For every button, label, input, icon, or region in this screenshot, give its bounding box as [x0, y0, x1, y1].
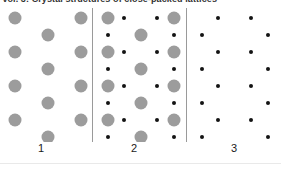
lattice-site-large	[75, 12, 88, 25]
lattice-site-small	[216, 16, 220, 20]
lattice-site-small	[172, 135, 176, 139]
lattice-site-small	[155, 118, 159, 122]
lattice-site-small	[155, 84, 159, 88]
panel-label-1: 1	[21, 142, 61, 154]
lattice-site-small	[122, 16, 126, 20]
lattice-site-small	[216, 84, 220, 88]
lattice-site-small	[155, 50, 159, 54]
panel-labels: 1 2 3	[0, 142, 281, 164]
lattice-site-large	[75, 46, 88, 59]
lattice-site-large	[168, 46, 181, 59]
panel-label-2: 2	[114, 142, 154, 154]
lattice-site-small	[172, 101, 176, 105]
panel-divider-1	[92, 8, 93, 142]
caption-strip: Vol. 3: Crystal structures of close-pack…	[0, 0, 281, 7]
lattice-site-small	[216, 118, 220, 122]
panel-divider-2	[186, 8, 187, 142]
panel-3	[187, 8, 281, 142]
caption-text: Vol. 3: Crystal structures of close-pack…	[2, 0, 217, 4]
panel-label-3: 3	[214, 142, 254, 154]
lattice-site-small	[155, 16, 159, 20]
plot-area	[0, 8, 281, 142]
lattice-site-large	[9, 46, 22, 59]
lattice-site-small	[249, 50, 253, 54]
lattice-site-small	[106, 33, 110, 37]
lattice-site-small	[249, 84, 253, 88]
panel-1	[0, 8, 92, 142]
lattice-site-large	[9, 12, 22, 25]
lattice-site-small	[216, 50, 220, 54]
lattice-site-large	[9, 80, 22, 93]
lattice-site-small	[200, 135, 204, 139]
lattice-site-large	[102, 114, 115, 127]
lattice-site-large	[42, 97, 55, 110]
lattice-site-small	[122, 84, 126, 88]
lattice-site-large	[42, 63, 55, 76]
lattice-site-small	[122, 118, 126, 122]
figure-baseline	[0, 163, 281, 164]
lattice-site-small	[200, 101, 204, 105]
lattice-site-small	[249, 118, 253, 122]
lattice-site-large	[135, 97, 148, 110]
panel-2	[93, 8, 186, 142]
lattice-site-small	[106, 101, 110, 105]
lattice-site-large	[102, 46, 115, 59]
lattice-site-large	[135, 63, 148, 76]
lattice-site-small	[200, 67, 204, 71]
lattice-site-large	[135, 29, 148, 42]
lattice-site-small	[266, 33, 270, 37]
lattice-site-small	[249, 16, 253, 20]
lattice-site-small	[200, 33, 204, 37]
lattice-site-large	[42, 29, 55, 42]
lattice-site-small	[122, 50, 126, 54]
lattice-site-large	[168, 114, 181, 127]
lattice-site-small	[266, 135, 270, 139]
lattice-site-small	[266, 67, 270, 71]
lattice-site-small	[172, 33, 176, 37]
lattice-site-small	[106, 135, 110, 139]
lattice-site-small	[106, 67, 110, 71]
lattice-site-large	[135, 131, 148, 143]
lattice-figure: Vol. 3: Crystal structures of close-pack…	[0, 0, 281, 170]
lattice-site-small	[266, 101, 270, 105]
lattice-site-large	[9, 114, 22, 127]
lattice-site-large	[102, 80, 115, 93]
lattice-site-large	[168, 12, 181, 25]
lattice-site-large	[75, 114, 88, 127]
lattice-site-small	[172, 67, 176, 71]
lattice-site-large	[75, 80, 88, 93]
lattice-site-large	[42, 131, 55, 143]
lattice-site-large	[168, 80, 181, 93]
lattice-site-large	[102, 12, 115, 25]
